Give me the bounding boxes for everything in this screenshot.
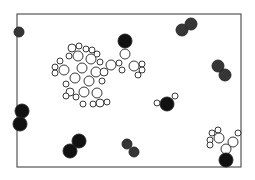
light-atom: [139, 67, 145, 73]
light-atom: [106, 60, 116, 70]
molecule-water: [154, 93, 178, 111]
light-atom: [73, 51, 83, 61]
light-atom: [96, 99, 104, 107]
diagram-canvas: [0, 0, 255, 180]
light-atom: [52, 64, 58, 70]
light-atom: [119, 67, 125, 73]
hatched-atom: [122, 139, 132, 149]
molecule-diatomic-hatched: [176, 18, 197, 36]
dark-atom: [160, 97, 174, 111]
light-atom: [129, 61, 139, 71]
dark-atom: [13, 117, 27, 131]
molecule-dark-single: [219, 153, 233, 167]
light-atom: [221, 144, 231, 154]
molecule-diatomic-hatched: [122, 139, 139, 157]
light-atom: [99, 78, 105, 84]
light-atom: [214, 133, 224, 143]
light-atom: [73, 94, 79, 100]
hatched-atom: [129, 147, 139, 157]
light-atom: [77, 63, 87, 73]
dark-atom: [219, 153, 233, 167]
molecule-diatomic-dark: [63, 134, 86, 158]
hatched-atom: [14, 27, 24, 37]
hatched-atom: [185, 18, 197, 30]
molecule-diatomic-hatched: [212, 60, 231, 81]
light-atom: [120, 49, 130, 59]
light-atom: [63, 93, 69, 99]
light-atom: [70, 73, 80, 83]
light-atom: [66, 53, 72, 59]
light-atom: [116, 60, 122, 66]
light-atom: [207, 142, 213, 148]
light-atom: [84, 76, 94, 86]
dark-atom: [15, 104, 29, 118]
molecule-cluster-large: [52, 43, 145, 107]
light-atom: [79, 87, 89, 97]
molecule-dark-single: [118, 34, 132, 48]
light-atom: [59, 65, 69, 75]
molecule-cluster-corner: [207, 127, 241, 154]
light-atom: [139, 61, 145, 67]
molecule-diagram: [0, 0, 255, 180]
light-atom: [80, 101, 86, 107]
light-atom: [154, 100, 160, 106]
dark-atom: [63, 144, 77, 158]
light-atom: [172, 93, 178, 99]
dark-atom: [118, 34, 132, 48]
hatched-atom: [219, 69, 231, 81]
light-atom: [91, 67, 101, 77]
light-atom: [215, 127, 221, 133]
light-atom: [104, 99, 110, 105]
light-atom: [63, 81, 69, 87]
molecule-diatomic-dark: [13, 104, 29, 131]
free-molecules: [13, 18, 233, 167]
light-atom: [57, 58, 63, 64]
light-atom: [90, 101, 96, 107]
light-atom: [52, 70, 58, 76]
molecule-diatomic-hatched: [14, 27, 24, 37]
light-atom: [83, 46, 89, 52]
light-atom: [92, 88, 102, 98]
light-atom: [235, 130, 241, 136]
light-atom: [100, 68, 108, 76]
light-atom: [97, 59, 103, 65]
light-atom: [68, 44, 76, 52]
light-atom: [89, 47, 95, 53]
light-atom: [86, 54, 96, 64]
light-atom: [209, 130, 215, 136]
light-atom: [76, 43, 82, 49]
light-atom: [135, 72, 141, 78]
